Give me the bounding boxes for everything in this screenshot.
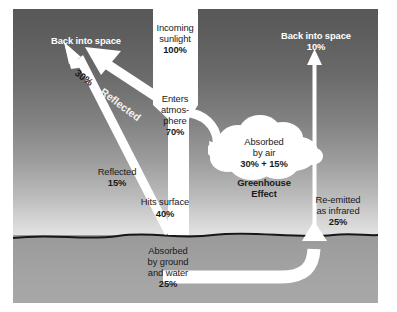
label-enters-atmosphere: Enters atmos- phere [149, 94, 201, 127]
label-greenhouse-effect: Greenhouse Effect [216, 178, 312, 200]
label-re-emitted-percent: 25% [299, 217, 377, 228]
label-absorbed-ground-percent: 25% [123, 279, 213, 290]
label-back-into-space-right-percent: 10% [261, 42, 371, 53]
screenshot-root: Back into space 30% Reflected Incoming s… [0, 0, 397, 312]
label-hits-surface-percent: 40% [126, 209, 204, 220]
label-back-into-space-left: Back into space [21, 36, 151, 47]
label-reflected-surface-percent: 15% [81, 178, 153, 189]
label-absorbed-by-air-percent: 30% + 15% [214, 159, 314, 170]
label-incoming-sunlight-percent: 100% [149, 45, 201, 56]
label-absorbed-by-air: Absorbed by air [220, 137, 308, 159]
label-enters-atmosphere-percent: 70% [149, 127, 201, 138]
label-re-emitted: Re-emitted as infrared [299, 195, 377, 217]
label-incoming-sunlight: Incoming sunlight [149, 23, 201, 45]
label-hits-surface: Hits surface [126, 197, 204, 208]
greenhouse-effect-diagram: Back into space 30% Reflected Incoming s… [13, 9, 378, 303]
label-absorbed-ground: Absorbed by ground and water [123, 246, 213, 279]
